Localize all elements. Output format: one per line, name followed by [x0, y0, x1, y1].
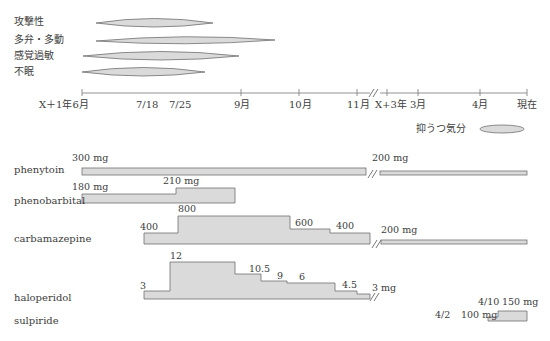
date-label: 4/2: [435, 309, 450, 321]
symptom-label-aggression: 攻撃性: [14, 16, 44, 28]
tick-label-oct: 10月: [289, 99, 312, 111]
drug-name-phenytoin: phenytoin: [14, 164, 65, 176]
dose-label: 400: [140, 221, 158, 233]
dose-label: 210 mg: [163, 175, 199, 187]
dose-label: 400: [336, 220, 354, 232]
tick-label-0725: 7/25: [169, 99, 191, 111]
tick-label-apr: 4月: [472, 99, 488, 111]
dose-label: 6: [299, 271, 305, 283]
dose-label: 9: [277, 270, 283, 282]
tick-label-0718: 7/18: [136, 99, 158, 111]
timeline-axis: [82, 89, 527, 97]
symptom-label-insomnia: 不眠: [14, 66, 34, 78]
dose-label: 600: [295, 217, 313, 229]
tick-label-start: X＋1年6月: [39, 99, 89, 111]
tick-label-mar: 3月: [410, 99, 426, 111]
dose-label: 3 mg: [372, 282, 396, 294]
symptom-bar-insomnia: [82, 68, 205, 77]
dose-label: 150 mg: [502, 296, 538, 308]
drug-name-haloperidol: haloperidol: [14, 292, 72, 304]
drug-name-phenobarbital: phenobarbital: [14, 195, 85, 207]
dose-label: 100 mg: [461, 309, 497, 321]
symptom-label-hyperactivity: 多弁・多動: [14, 34, 64, 46]
clinical-course-diagram: .fill { fill:#dadada; stroke:#707070; st…: [0, 0, 550, 341]
symptom-bar-aggression: [96, 19, 213, 28]
symptom-label-hypersensitivity: 感覚過敏: [14, 50, 54, 62]
dose-label: 12: [170, 250, 182, 262]
drug-name-carbamazepine: carbamazepine: [14, 233, 91, 245]
symptom-bar-hypersensitivity: [83, 52, 239, 61]
tick-label-now: 現在: [517, 99, 537, 111]
tick-label-sep: 9月: [234, 99, 250, 111]
dose-label: 300 mg: [72, 152, 108, 164]
drug-name-sulpiride: sulpiride: [14, 315, 59, 327]
dose-label: 3: [140, 280, 146, 292]
dose-label: 10.5: [249, 263, 270, 275]
dose-label: 800: [178, 203, 196, 215]
dose-label: 180 mg: [72, 181, 108, 193]
dose-label: 4.5: [342, 279, 357, 291]
date-label: 4/10: [478, 296, 499, 308]
depression-label: 抑うつ気分: [416, 123, 466, 135]
symptom-bar-hyperactivity: [96, 37, 275, 44]
symptom-bar-depression: [480, 125, 524, 133]
dose-label: 200 mg: [372, 152, 408, 164]
phenytoin-bars: [82, 168, 527, 178]
tick-label-year3: X+3年: [375, 99, 407, 111]
tick-label-nov: 11月: [347, 99, 370, 111]
dose-label: 200 mg: [381, 224, 417, 236]
